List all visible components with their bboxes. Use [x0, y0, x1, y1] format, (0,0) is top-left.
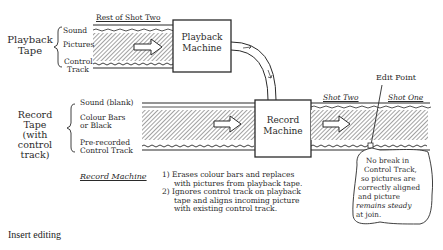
- callout-text: No break in Control Track, so pictures a…: [356, 156, 432, 219]
- record-machine-notes-heading: Record Machine: [80, 172, 147, 181]
- record-track-colour-bars: Colour Bars or Black: [80, 114, 125, 130]
- text-layer: Playback Tape Sound Pictures Control Tra…: [0, 0, 443, 250]
- playback-tape-label: Playback Tape: [6, 34, 54, 56]
- record-machine-label: Record Machine: [255, 115, 311, 137]
- figure-caption: Insert editing: [8, 229, 61, 240]
- shot-two-label: Shot Two: [323, 93, 359, 102]
- shot-one-label: Shot One: [388, 93, 423, 102]
- playback-track-sound: Sound: [63, 26, 87, 35]
- playback-machine-label: Playback Machine: [173, 32, 231, 54]
- record-tape-label: Record Tape (with control track): [4, 110, 66, 160]
- record-track-control: Pre-recorded Control Track: [80, 139, 133, 155]
- edit-point-label: Edit Point: [376, 73, 416, 82]
- record-machine-notes: 1) Erases colour bars and replaces with …: [162, 171, 302, 214]
- playback-track-pictures: Pictures: [63, 40, 94, 49]
- record-track-sound: Sound (blank): [80, 98, 133, 107]
- rest-of-shot-two-label: Rest of Shot Two: [96, 13, 161, 22]
- playback-track-control: Control Track: [64, 58, 93, 74]
